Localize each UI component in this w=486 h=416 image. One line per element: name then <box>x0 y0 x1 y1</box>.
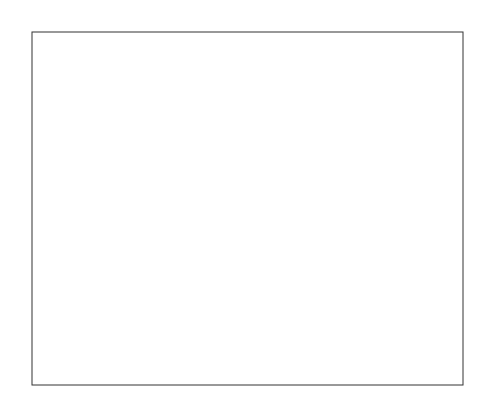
plot-axes-box <box>32 32 463 385</box>
gradient-arrow-plot <box>0 0 486 416</box>
